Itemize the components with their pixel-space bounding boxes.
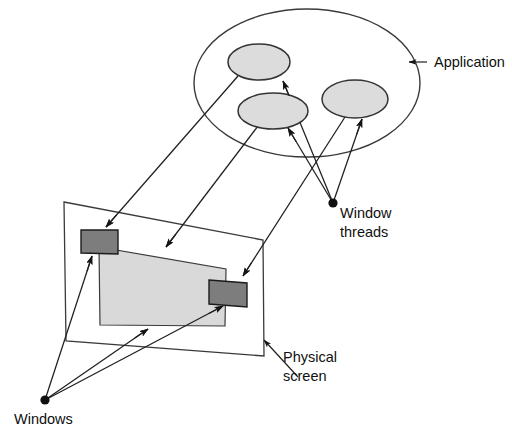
- window-rect-2: [209, 280, 247, 307]
- windows-node-dot: [40, 395, 49, 404]
- diagram-root: Application Window threads Physical scre…: [0, 0, 512, 437]
- window-thread-ellipse-2: [238, 93, 308, 129]
- window-thread-ellipse-3: [322, 80, 388, 118]
- window-thread-ellipse-1: [228, 44, 290, 80]
- connector-thread1-to-window1: [106, 76, 238, 227]
- window-threads-node-dot: [328, 198, 337, 207]
- physical-screen-label-line1: Physical: [283, 349, 337, 365]
- window-threads-label-line2: threads: [340, 224, 388, 240]
- window-threads-diagram: Application Window threads Physical scre…: [0, 0, 512, 437]
- window-rect-1: [81, 230, 118, 254]
- window-threads-label-line1: Window: [340, 205, 392, 221]
- windows-label: Windows: [14, 411, 73, 427]
- application-boundary-ellipse: [194, 9, 420, 157]
- physical-screen-label-line2: screen: [283, 368, 327, 384]
- connector-thread2-to-screen: [166, 126, 258, 247]
- application-label: Application: [434, 54, 505, 70]
